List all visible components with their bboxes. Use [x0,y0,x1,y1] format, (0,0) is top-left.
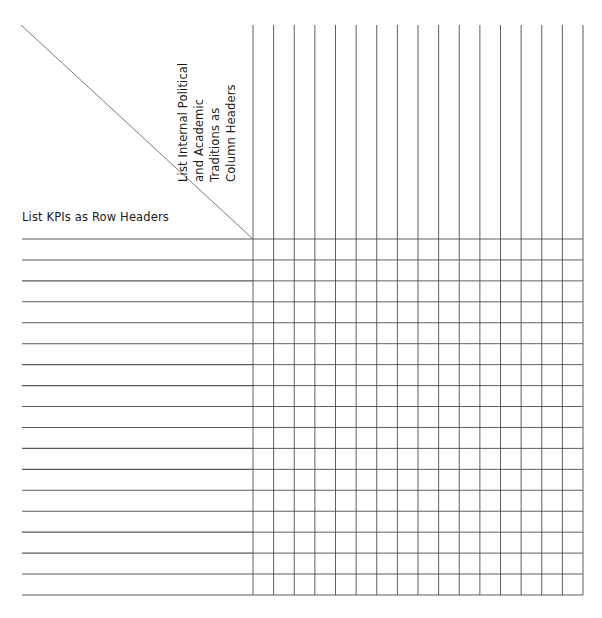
column-header-instruction-line-3: Traditions as [208,108,222,182]
column-header-instruction-line-1: List Internal Political [176,63,190,182]
column-header-instruction-label: List Internal Political and Academic Tra… [186,22,252,182]
grid-line-layer [0,0,602,618]
column-header-instruction-line-2: and Academic [192,99,206,182]
column-grid-lines [253,25,583,595]
row-header-instruction-label: List KPIs as Row Headers [22,210,169,224]
row-rule-lines [22,239,253,595]
column-header-instruction-line-4: Column Headers [224,84,238,182]
matrix-worksheet-canvas: List KPIs as Row Headers List Internal P… [0,0,602,618]
